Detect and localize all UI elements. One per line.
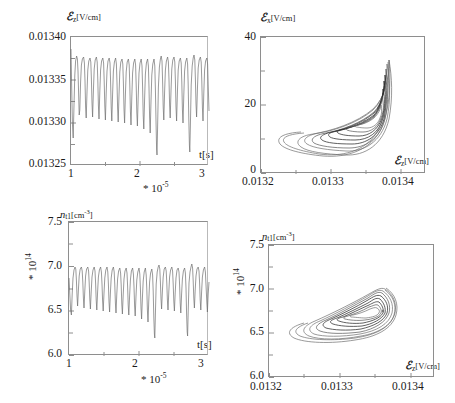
xtick-label-bottom-left-2: 3 xyxy=(198,358,204,370)
axis-label-y-top-right: ℰx[V/cm] xyxy=(260,11,295,25)
axis-label-y-bottom-left-unit: [cm xyxy=(71,210,84,220)
panel-bottom-right-attractor: nt1[cm-3] * 1014 7.5 7.0 6.5 6.0 0.0132 … xyxy=(228,200,455,403)
y-minor-ticks-bottom-right xyxy=(269,267,273,355)
ytick-label-top-left-0: 0.01340 xyxy=(4,31,66,43)
axis-label-y-bottom-right: nt1[cm-3] xyxy=(262,230,295,243)
xtick-label-top-right-2: 0.0134 xyxy=(382,176,414,188)
ytick-label-bottom-left-1: 7.0 xyxy=(30,260,62,272)
ytick-label-top-left-1: 0.01335 xyxy=(4,74,66,86)
ytick-label-bottom-right-1: 7.0 xyxy=(236,283,264,295)
plot-area-bottom-left xyxy=(68,221,208,355)
plot-area-bottom-right xyxy=(268,244,434,377)
xtick-label-top-left-0: 1 xyxy=(68,168,74,180)
xtick-label-bottom-right-0: 0.0132 xyxy=(250,381,282,393)
xtick-label-bottom-right-1: 0.0133 xyxy=(321,381,353,393)
ytick-label-bottom-left-0: 7.5 xyxy=(30,216,62,228)
axis-label-y-top-right-unit: [V/cm] xyxy=(271,13,296,23)
x-multiplier-top-left-exp: -5 xyxy=(162,180,168,189)
ytick-label-bottom-left-3: 6.0 xyxy=(30,348,62,360)
ytick-label-top-left-3: 0.01325 xyxy=(4,158,66,170)
attractor-marker-top-right xyxy=(364,120,366,122)
xtick-label-bottom-right-2: 0.0134 xyxy=(392,381,424,393)
attractor-curves-ez-ex xyxy=(279,60,392,156)
x-multiplier-bottom-left-exp: -5 xyxy=(160,371,166,380)
x-multiplier-bottom-left-text: * 10 xyxy=(141,373,160,385)
plot-svg-top-right xyxy=(261,37,426,174)
x-ticks-bottom-right xyxy=(270,373,412,378)
x-multiplier-top-left: * 10-5 xyxy=(143,180,169,194)
ytick-label-top-right-0: 40 xyxy=(228,31,256,43)
plot-svg-bottom-right xyxy=(269,245,435,378)
y-ticks-top-right xyxy=(261,38,266,174)
ytick-label-top-left-2: 0.01330 xyxy=(4,116,66,128)
ytick-label-bottom-right-2: 6.5 xyxy=(236,326,264,338)
plot-area-top-right xyxy=(260,36,425,173)
axis-label-y-top-left: ℰz[V/cm] xyxy=(66,10,101,24)
panel-top-left-timeseries: ℰz[V/cm] 0.01340 0.01335 0.01330 0.01325… xyxy=(0,0,228,200)
panel-bottom-left-timeseries: nt1[cm-3] * 1014 7.5 7.0 6.5 6.0 1 2 3 t… xyxy=(0,200,228,403)
xtick-label-top-right-0: 0.0132 xyxy=(242,176,274,188)
ytick-label-top-right-2: 0 xyxy=(228,164,256,176)
xtick-label-bottom-left-0: 1 xyxy=(66,358,72,370)
series-curve-nt1-time xyxy=(69,264,209,338)
attractor-curves-ez-nt1 xyxy=(289,288,397,342)
series-curve-ez-time xyxy=(71,49,209,155)
ytick-label-top-right-1: 20 xyxy=(228,98,256,110)
axis-label-y-bottom-left: nt1[cm-3] xyxy=(60,208,93,221)
y-multiplier-bottom-right-exp: 14 xyxy=(232,268,241,276)
ytick-label-bottom-right-0: 7.5 xyxy=(236,239,264,251)
x-multiplier-top-left-text: * 10 xyxy=(143,182,162,194)
attractor-marker-bottom-right xyxy=(382,310,384,312)
xtick-label-top-left-1: 2 xyxy=(134,168,140,180)
axis-label-y-bottom-right-unit: [cm xyxy=(273,232,286,242)
plot-svg-top-left xyxy=(71,37,209,166)
xtick-label-top-left-2: 3 xyxy=(199,168,205,180)
axis-label-y-bottom-right-unit-close: ] xyxy=(292,232,295,242)
ytick-label-bottom-left-2: 6.5 xyxy=(30,304,62,316)
xtick-label-top-right-1: 0.0133 xyxy=(312,176,344,188)
axis-label-y-bottom-left-unit-close: ] xyxy=(90,210,93,220)
axis-label-y-top-left-unit: [V/cm] xyxy=(76,12,101,22)
panel-top-right-attractor: ℰx[V/cm] 40 20 0 0.0132 0.0133 0.0134 ℰz… xyxy=(228,0,455,200)
x-ticks-top-right xyxy=(262,169,402,174)
xtick-label-bottom-left-1: 2 xyxy=(132,358,138,370)
x-multiplier-bottom-left: * 10-5 xyxy=(141,371,167,385)
plot-svg-bottom-left xyxy=(69,222,209,356)
plot-area-top-left xyxy=(70,36,208,165)
